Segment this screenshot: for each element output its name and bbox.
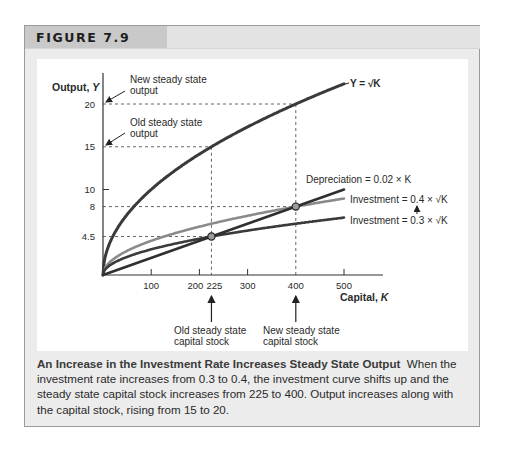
x-tick-label-500: 500 xyxy=(336,280,352,291)
y-tick-label-20: 20 xyxy=(84,99,95,110)
steady-state-marker-new xyxy=(292,203,299,210)
investment-old-label: Investment = 0.3 × √K xyxy=(350,215,448,226)
depreciation-label: Depreciation = 0.02 × K xyxy=(306,174,411,185)
x-tick-label-400: 400 xyxy=(288,280,304,291)
y-tick-label-4.5: 4.5 xyxy=(82,231,95,242)
old-capital-annotation-1: Old steady state xyxy=(174,325,247,336)
x-tick-label-100: 100 xyxy=(143,280,159,291)
investment-new-label: Investment = 0.4 × √K xyxy=(350,194,448,205)
y-axis-label: Output, Y xyxy=(52,81,100,93)
x-tick-label-200: 200 xyxy=(187,280,203,291)
x-tick-label-225: 225 xyxy=(207,280,223,291)
y-tick-label-15: 15 xyxy=(84,141,95,152)
y-tick-label-10: 10 xyxy=(84,184,95,195)
old-output-arrow-icon xyxy=(106,133,125,145)
steady-state-marker-old xyxy=(208,233,215,240)
new-capital-annotation-2: capital stock xyxy=(263,336,319,347)
old-capital-annotation-2: capital stock xyxy=(174,336,230,347)
new-output-annotation-1: New steady state xyxy=(130,74,207,85)
old-output-annotation-1: Old steady state xyxy=(130,117,203,128)
new-capital-annotation-1: New steady state xyxy=(263,325,340,336)
figure-caption: An Increase in the Investment Rate Incre… xyxy=(37,356,469,417)
x-axis-label: Capital, K xyxy=(340,291,390,303)
output-label-leader xyxy=(345,83,349,84)
output-curve-label: Y = √K xyxy=(350,78,381,89)
new-output-arrow-icon xyxy=(106,91,125,102)
x-tick-label-300: 300 xyxy=(240,280,256,291)
y-tick-label-8: 8 xyxy=(90,201,95,212)
caption-title: An Increase in the Investment Rate Incre… xyxy=(37,357,400,370)
new-output-annotation-2: output xyxy=(130,85,158,96)
old-output-annotation-2: output xyxy=(130,128,158,139)
